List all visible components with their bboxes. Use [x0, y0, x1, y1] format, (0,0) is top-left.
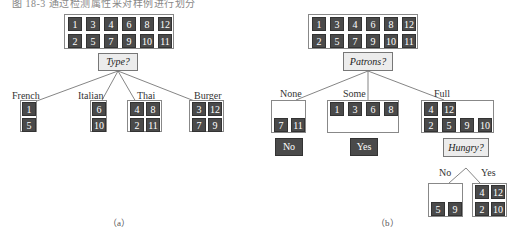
example-cell: 8 — [140, 17, 154, 31]
french-examples: 1 5 — [20, 100, 37, 132]
example-cell: 6 — [122, 17, 136, 31]
example-cell: 11 — [291, 118, 305, 132]
example-cell: 10 — [92, 118, 106, 132]
question-hungry: Hungry? — [443, 138, 489, 157]
none-examples: 7 11 — [271, 100, 306, 133]
hungry-no-examples: 5 9 — [428, 183, 463, 217]
example-cell: 5 — [431, 202, 445, 216]
italian-examples: 6 10 — [90, 100, 107, 132]
example-cell: 11 — [402, 34, 416, 48]
example-cell: 7 — [104, 34, 118, 48]
example-cell: 9 — [460, 118, 474, 132]
example-cell: 12 — [402, 17, 416, 31]
example-cell: 10 — [384, 34, 398, 48]
example-cell: 9 — [208, 118, 222, 132]
example-cell: 6 — [366, 17, 380, 31]
example-cell: 1 — [330, 102, 344, 116]
example-cell: 5 — [330, 34, 344, 48]
example-cell: 11 — [158, 34, 172, 48]
example-cell: 1 — [22, 102, 36, 116]
example-cell: 3 — [348, 102, 362, 116]
example-cell: 1 — [68, 17, 82, 31]
example-cell: 4 — [130, 102, 144, 116]
example-cell: 8 — [384, 17, 398, 31]
example-cell: 2 — [475, 202, 489, 216]
example-cell: 12 — [442, 102, 456, 116]
branch-label-full: Full — [434, 88, 450, 99]
example-cell: 7 — [192, 118, 206, 132]
burger-examples: 3 12 7 9 — [189, 100, 224, 132]
some-examples: 1 3 6 8 — [327, 100, 399, 133]
example-cell: 2 — [424, 118, 438, 132]
full-examples: 4 12 2 5 9 10 — [421, 100, 494, 133]
sub-branch-label-no: No — [439, 167, 451, 178]
example-cell: 9 — [122, 34, 136, 48]
example-cell: 5 — [22, 118, 36, 132]
example-cell: 4 — [475, 185, 489, 199]
example-cell: 3 — [330, 17, 344, 31]
example-cell: 1 — [312, 17, 326, 31]
branch-label-some: Some — [343, 88, 366, 99]
example-cell: 2 — [68, 34, 82, 48]
example-cell: 9 — [448, 202, 462, 216]
sub-branch-label-yes: Yes — [481, 167, 496, 178]
question-type: Type? — [98, 53, 138, 71]
example-cell: 3 — [192, 102, 206, 116]
example-cell: 12 — [491, 185, 505, 199]
root-examples-b: 1 3 4 6 8 12 2 5 7 9 10 11 — [308, 14, 418, 49]
example-cell: 4 — [104, 17, 118, 31]
example-cell: 9 — [366, 34, 380, 48]
leaf-yes: Yes — [350, 138, 378, 156]
example-cell: 6 — [366, 102, 380, 116]
example-cell: 6 — [92, 102, 106, 116]
example-cell: 3 — [86, 17, 100, 31]
example-cell: 12 — [158, 17, 172, 31]
example-cell: 7 — [274, 118, 288, 132]
leaf-no: No — [275, 138, 303, 156]
example-cell: 2 — [130, 118, 144, 132]
panel-b-label: （b） — [376, 216, 399, 229]
example-cell: 11 — [146, 118, 160, 132]
example-cell: 7 — [348, 34, 362, 48]
hungry-yes-examples: 4 12 2 10 — [472, 183, 507, 217]
example-cell: 8 — [146, 102, 160, 116]
example-cell: 10 — [140, 34, 154, 48]
example-cell: 4 — [348, 17, 362, 31]
example-cell: 12 — [208, 102, 222, 116]
example-cell: 8 — [384, 102, 398, 116]
example-cell: 5 — [442, 118, 456, 132]
panel-a-label: （a） — [108, 216, 130, 229]
example-cell: 10 — [491, 202, 505, 216]
example-cell: 4 — [424, 102, 438, 116]
thai-examples: 4 8 2 11 — [127, 100, 162, 132]
example-cell: 5 — [86, 34, 100, 48]
question-patrons: Patrons? — [343, 52, 393, 71]
example-cell: 2 — [312, 34, 326, 48]
example-cell: 10 — [478, 118, 492, 132]
branch-label-none: None — [280, 88, 302, 99]
root-examples-a: 1 3 4 6 8 12 2 5 7 9 10 11 — [64, 14, 174, 49]
